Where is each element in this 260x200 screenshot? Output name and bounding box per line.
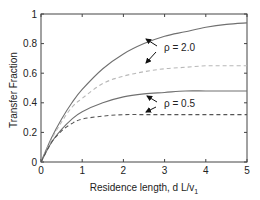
y-tick-label: 0.6 (23, 68, 37, 79)
y-tick-label: 0 (31, 157, 37, 168)
series-line-2 (41, 91, 247, 162)
y-tick-label: 1 (31, 9, 37, 20)
annotation-arrow-icon (146, 107, 156, 112)
series-line-0 (41, 23, 247, 162)
series-line-1 (41, 66, 247, 162)
annotation-arrow-icon (147, 96, 157, 102)
axes-frame (41, 14, 247, 162)
x-tick-label: 3 (162, 165, 168, 176)
y-tick-label: 0.4 (23, 97, 37, 108)
annotations: ρ = 2.0ρ = 0.5 (146, 39, 195, 112)
chart: 01234500.20.40.60.81 ρ = 2.0ρ = 0.5 Tran… (0, 0, 260, 200)
x-tick-label: 1 (79, 165, 85, 176)
annotation-label: ρ = 0.5 (164, 98, 195, 109)
x-axis-label-main: Residence length, d L/v (90, 182, 195, 193)
x-tick-label: 5 (244, 165, 250, 176)
annotation-arrow-icon (146, 52, 156, 63)
x-tick-label: 4 (203, 165, 209, 176)
series-layer (41, 23, 247, 162)
x-tick-label: 2 (121, 165, 127, 176)
plot-area: 01234500.20.40.60.81 (23, 9, 250, 177)
y-tick-label: 0.2 (23, 127, 37, 138)
y-tick-label: 0.8 (23, 38, 37, 49)
x-axis-label-subscript: 1 (194, 188, 198, 195)
x-tick-label: 0 (38, 165, 44, 176)
y-axis-label: Transfer Fraction (8, 52, 19, 128)
series-line-3 (41, 115, 247, 162)
annotation-label: ρ = 2.0 (164, 42, 195, 53)
x-axis-label: Residence length, d L/v1 (90, 182, 199, 195)
